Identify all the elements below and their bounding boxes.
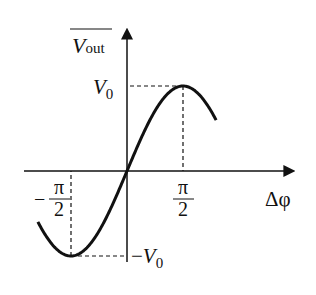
y-tick-label-pos: V0 [93,75,113,102]
x-tick-label-pos: π 2 [173,176,194,220]
svg-text:π: π [54,176,64,198]
svg-text:2: 2 [178,198,188,220]
sine-chart: Vout Δφ V0 −V0 π 2 − π 2 [0,0,316,295]
y-axis-label: Vout [72,33,105,58]
svg-text:−: − [34,188,45,210]
x-axis-label: Δφ [265,187,291,211]
svg-text:π: π [178,176,188,198]
svg-text:2: 2 [54,198,64,220]
y-tick-label-neg: −V0 [131,244,163,271]
x-tick-label-neg: − π 2 [34,176,70,220]
